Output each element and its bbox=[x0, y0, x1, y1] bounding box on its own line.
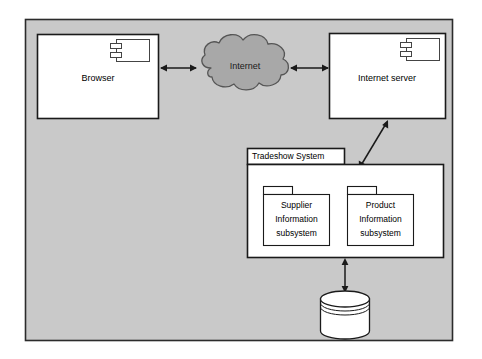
browser-label: Browser bbox=[81, 73, 114, 83]
package-tab bbox=[348, 187, 377, 195]
supplier-subsystem-line-1: Supplier bbox=[281, 200, 312, 210]
supplier-subsystem-line-3: subsystem bbox=[276, 228, 317, 238]
database-cylinder-icon bbox=[321, 291, 370, 339]
node-database[interactable] bbox=[321, 291, 370, 339]
diagram-canvas: Browser Internet Internet s bbox=[0, 0, 482, 359]
node-tradeshow-system[interactable]: Tradeshow System Supplier Information su… bbox=[248, 149, 444, 258]
product-subsystem-line-2: Information bbox=[359, 214, 402, 224]
package-tab bbox=[264, 187, 293, 195]
internet-label: Internet bbox=[230, 61, 261, 71]
product-subsystem-line-3: subsystem bbox=[360, 228, 401, 238]
node-product-information-subsystem[interactable]: Product Information subsystem bbox=[348, 187, 414, 246]
uml-deployment-diagram: Browser Internet Internet s bbox=[0, 0, 482, 359]
component-icon bbox=[401, 39, 440, 61]
node-browser[interactable]: Browser bbox=[38, 35, 159, 119]
product-subsystem-line-1: Product bbox=[366, 200, 396, 210]
internet-server-label: Internet server bbox=[358, 73, 416, 83]
node-supplier-information-subsystem[interactable]: Supplier Information subsystem bbox=[264, 187, 330, 246]
supplier-subsystem-line-2: Information bbox=[275, 214, 318, 224]
component-icon bbox=[111, 40, 150, 62]
node-internet-server[interactable]: Internet server bbox=[330, 34, 446, 119]
tradeshow-system-label: Tradeshow System bbox=[252, 151, 324, 161]
